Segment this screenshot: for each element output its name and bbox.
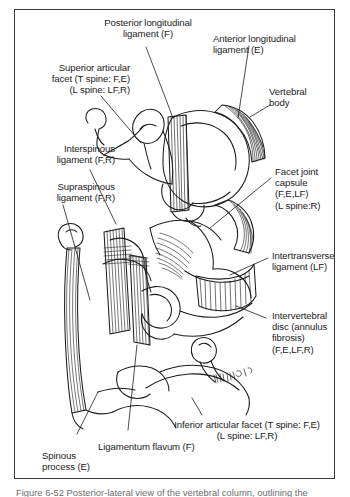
label-inferior-articular-facet: Inferior articular facet (T spine: F,E) …: [148, 419, 346, 441]
label-supraspinous-ligament: Supraspinous ligament (F,R): [5, 181, 115, 203]
label-superior-articular-facet: Superior articular facet (T spine: F,E) …: [8, 62, 130, 96]
label-vertebral-body: Vertebral body: [269, 86, 339, 108]
figure-caption: Figure 6-52 Posterior-lateral view of th…: [16, 487, 346, 497]
label-anterior-longitudinal-ligament: Anterior longitudinal ligament (E): [213, 33, 343, 55]
label-posterior-longitudinal-ligament: Posterior longitudinal ligament (F): [78, 17, 218, 39]
label-intertransverse-ligament: Intertransverse ligament (LF): [272, 250, 350, 272]
label-intervertebral-disc: Intervertebral disc (annulus fibrosis) (…: [272, 310, 350, 355]
label-spinous-process: Spinous process (E): [42, 450, 122, 472]
label-interspinous-ligament: Interspinous ligament (F,R): [8, 143, 115, 165]
label-facet-joint-capsule: Facet joint capsule (F,E,LF) (L spine:R): [275, 166, 347, 211]
